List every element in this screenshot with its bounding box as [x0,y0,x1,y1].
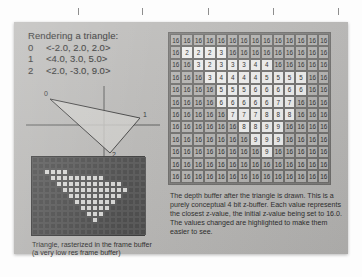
depth-buffer-cell: 16 [307,146,318,158]
depth-buffer-cell: 3 [238,59,249,71]
slide-screenshot: Rendering a triangle: 0 <-2.0, 2.0, 2.0>… [0,0,362,277]
depth-buffer-row: 1616161616161616161616161616 [170,170,329,182]
depth-buffer-cell: 16 [250,170,261,182]
framebuffer-grid [31,156,145,236]
depth-buffer-row: 161616166666677161616 [170,96,329,108]
depth-buffer-cell: 8 [238,121,249,133]
depth-buffer-cell: 3 [193,59,204,71]
depth-buffer-cell: 16 [261,34,272,46]
depth-buffer-row: 1616163444455551616 [170,71,329,83]
depth-buffer-cell: 4 [261,59,272,71]
depth-buffer-cell: 16 [181,96,192,108]
depth-buffer-cell: 16 [295,108,306,120]
depth-buffer-cell: 16 [295,96,306,108]
triangle-diagram: 0 1 2 [24,80,166,158]
depth-buffer-row: 1616161616777888161616 [170,108,329,120]
depth-buffer-cell: 16 [193,133,204,145]
depth-buffer-cell: 16 [204,158,215,170]
depth-buffer-cell: 16 [295,121,306,133]
depth-buffer-cell: 2 [204,59,215,71]
depth-buffer-cell: 16 [181,158,192,170]
framebuffer-panel [31,156,145,236]
depth-buffer-cell: 16 [170,46,181,58]
depth-buffer-cell: 16 [181,59,192,71]
depth-buffer-cell: 16 [216,133,227,145]
triangle-shape [50,99,140,153]
depth-buffer-cell: 16 [273,59,284,71]
depth-buffer-row: 16161616555666661616 [170,84,329,96]
depth-buffer-cell: 3 [227,59,238,71]
depth-buffer-cell: 16 [193,108,204,120]
depth-buffer-cell: 9 [273,121,284,133]
depth-buffer-cell: 16 [318,146,329,158]
depth-buffer-cell: 16 [204,34,215,46]
depth-buffer-cell: 16 [273,158,284,170]
depth-buffer-cell: 16 [261,170,272,182]
depth-buffer-cell: 16 [284,133,295,145]
depth-buffer-cell: 16 [238,34,249,46]
depth-buffer-cell: 9 [261,146,272,158]
depth-buffer-caption: The depth buffer after the triangle is d… [170,192,342,237]
vertex-label-1: 1 [143,111,147,118]
depth-buffer-cell: 16 [193,96,204,108]
depth-buffer-cell: 16 [307,121,318,133]
depth-buffer-cell: 16 [238,46,249,58]
ruler-tick-0 [78,8,79,15]
depth-buffer-cell: 16 [204,170,215,182]
depth-buffer-cell: 16 [284,170,295,182]
depth-buffer-cell: 6 [250,96,261,108]
depth-buffer-cell: 16 [193,34,204,46]
depth-buffer-cell: 16 [204,146,215,158]
depth-buffer-cell: 5 [238,84,249,96]
depth-buffer-cell: 16 [318,121,329,133]
depth-buffer-cell: 16 [170,121,181,133]
depth-buffer-cell: 9 [261,133,272,145]
depth-buffer-row: 1616161616161616161616161616 [170,158,329,170]
depth-buffer-cell: 16 [216,108,227,120]
depth-buffer-cell: 3 [204,71,215,83]
depth-buffer-cell: 6 [261,84,272,96]
depth-buffer-cell: 16 [181,71,192,83]
depth-buffer-cell: 4 [250,71,261,83]
depth-buffer-cell: 16 [193,170,204,182]
depth-buffer-cell: 4 [238,71,249,83]
ruler-tick-4 [338,8,339,15]
vertex-index: 1 [28,53,46,65]
depth-buffer-cell: 6 [227,96,238,108]
depth-buffer-cell: 16 [170,71,181,83]
framebuffer-caption: Triangle, rasterized in the frame buffer… [32,241,156,258]
depth-buffer-cell: 16 [227,133,238,145]
depth-buffer-cell: 16 [318,34,329,46]
depth-buffer-cell: 16 [181,146,192,158]
depth-buffer-cell: 16 [284,158,295,170]
depth-buffer-cell: 4 [216,71,227,83]
depth-buffer-cell: 16 [273,170,284,182]
depth-buffer-cell: 16 [273,34,284,46]
depth-buffer-cell: 16 [181,34,192,46]
depth-buffer-cell: 16 [238,170,249,182]
depth-buffer-grid: 1616161616161616161616161616162223161616… [168,32,331,185]
depth-buffer-cell: 16 [170,59,181,71]
depth-buffer-cell: 16 [295,170,306,182]
depth-buffer-cell: 16 [318,59,329,71]
depth-buffer-cell: 3 [216,59,227,71]
depth-buffer-cell: 8 [261,108,272,120]
depth-buffer-cell: 16 [307,158,318,170]
depth-buffer-cell: 16 [318,108,329,120]
depth-buffer-cell: 2 [204,46,215,58]
depth-buffer-cell: 16 [193,71,204,83]
depth-buffer-cell: 16 [238,146,249,158]
depth-buffer-cell: 16 [170,146,181,158]
depth-buffer-row: 1616161616161699916161616 [170,133,329,145]
slide-body: Rendering a triangle: 0 <-2.0, 2.0, 2.0>… [14,22,348,254]
framebuffer-pixel [140,229,146,235]
depth-buffer-cell: 16 [227,46,238,58]
right-column: 1616161616161616161616161616162223161616… [168,28,344,250]
depth-buffer-cell: 5 [284,71,295,83]
depth-buffer-cell: 16 [261,158,272,170]
depth-buffer-cell: 9 [250,133,261,145]
depth-buffer-cell: 16 [170,84,181,96]
vertex-value: <-2.0, 2.0, 2.0> [46,42,110,54]
depth-buffer-cell: 9 [273,133,284,145]
depth-buffer-cell: 5 [261,71,272,83]
